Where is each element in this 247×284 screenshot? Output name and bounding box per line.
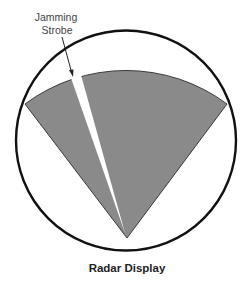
arrowhead-icon <box>69 70 74 78</box>
diagram-title: Radar Display <box>89 262 166 274</box>
radar-display-diagram: Jamming Strobe Radar Display <box>0 0 247 284</box>
callout-label-line2: Strobe <box>42 24 73 36</box>
scan-sector <box>25 70 227 238</box>
callout-arrow <box>62 37 74 77</box>
callout-label-line1: Jamming <box>35 11 78 23</box>
